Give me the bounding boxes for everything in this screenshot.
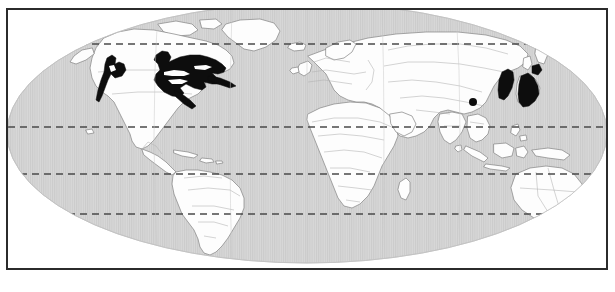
map-canvas [8,10,606,268]
island-philippines-2 [520,135,527,141]
world-map-figure: World distribution map Robinson-style wo… [0,0,615,292]
map-frame [6,8,608,270]
central-china-point-marker [469,98,477,106]
island-puerto-rico [216,161,223,164]
